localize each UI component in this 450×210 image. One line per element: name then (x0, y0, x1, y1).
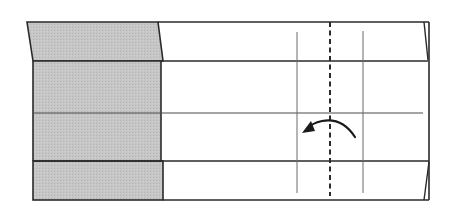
origami-diagram: Valley fold along the dashed center line… (0, 0, 450, 210)
shaded-top-flap (27, 22, 163, 61)
shaded-bottom-section (33, 161, 163, 200)
fold-arrow-icon (302, 120, 355, 137)
shaded-middle-section (33, 61, 161, 161)
